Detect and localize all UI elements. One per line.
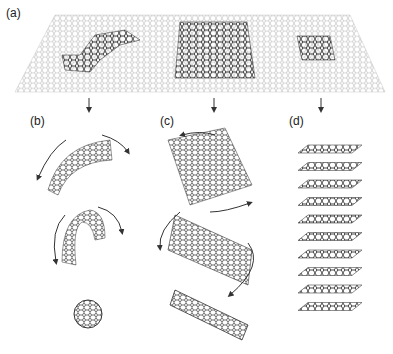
- graphite-layer: [298, 180, 362, 188]
- graphite-layer: [298, 233, 362, 241]
- graphite-layer: [298, 250, 362, 258]
- panel-label-c: (c): [160, 114, 174, 128]
- graphite-layer: [298, 285, 362, 293]
- highlight-graphite-region: [297, 36, 335, 60]
- down-arrows: [89, 98, 321, 110]
- graphite-layer: [298, 303, 362, 311]
- diagram-canvas: [0, 0, 393, 354]
- graphite-panel: [298, 145, 362, 311]
- graphite-layer: [298, 268, 362, 276]
- highlight-nanotube-region: [175, 22, 255, 78]
- graphene-diagram: (a) (b) (c) (d): [0, 0, 393, 354]
- graphite-layer: [298, 145, 362, 153]
- fullerene-panel: [38, 135, 128, 328]
- nanotube-panel: [160, 128, 254, 340]
- graphite-layer: [298, 215, 362, 223]
- graphene-sheet: [15, 15, 385, 92]
- panel-label-b: (b): [30, 114, 45, 128]
- panel-label-d: (d): [289, 114, 304, 128]
- graphite-layer: [298, 163, 362, 171]
- graphite-layer: [298, 198, 362, 206]
- panel-label-a: (a): [6, 6, 21, 20]
